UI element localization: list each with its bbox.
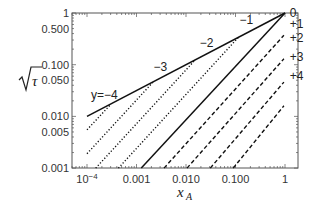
x-tick-label: 10−4 [76,172,98,185]
curve-label: +1 [290,17,304,31]
series-yplus4 [233,106,284,168]
curve-label: +2 [290,31,304,45]
y-tick-label: 0.050 [41,74,69,86]
y-tick-label: 0.001 [41,162,69,174]
y-tick-label: 0.005 [41,126,69,138]
y-tick-label: 1 [63,7,69,19]
series-yplus1 [164,35,284,168]
y-axis: 10.5000.1000.0500.0100.0050.001 [41,7,298,174]
curve-label: +3 [290,50,304,64]
curve-label: −1 [239,13,253,27]
x-axis-title-main: x [176,184,184,200]
curve-label: −3 [153,60,167,74]
curve-label: −2 [200,36,214,50]
series-y-2 [96,60,196,168]
chart: 10−40.0010.0100.1001 10.5000.1000.0500.0… [0,0,332,210]
x-tick-label: 0.001 [123,173,151,185]
series-yplus3 [210,82,284,168]
y-tick-label: 0.100 [41,59,69,71]
y-axis-title: τ [19,67,42,90]
x-tick-label: 0.100 [222,173,250,185]
series-yplus2 [187,59,284,168]
curve-label: y=−4 [91,88,118,102]
y-axis-title-tau: τ [32,73,38,89]
x-axis-title: x A [176,184,193,202]
y-tick-label: 0.500 [41,23,69,35]
x-axis-title-subscript: A [185,191,193,202]
curve-labels: y=−4−3−2−10+1+2+3+4 [91,6,304,101]
sqrt-icon [19,67,42,90]
x-tick-label: 1 [282,173,288,185]
series-y-1 [118,37,238,168]
series-y-4 [87,105,111,130]
curve-label: +4 [290,69,304,83]
y-tick-label: 0.010 [41,110,69,122]
